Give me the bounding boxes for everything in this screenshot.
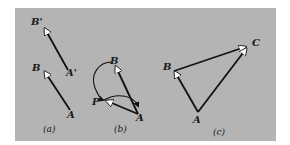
vector-B-to-C: [174, 47, 245, 71]
label-A-prime: A': [66, 68, 77, 78]
label-C: C: [252, 38, 260, 48]
label-B: B: [110, 56, 118, 66]
label-A: A: [136, 113, 144, 123]
panel-c-vectors: [174, 47, 246, 112]
vector-A-to-C: [198, 49, 246, 112]
caption-b: (b): [114, 125, 127, 134]
caption-c: (c): [213, 128, 225, 137]
label-A: A: [193, 115, 201, 125]
curve-B-to-P: [94, 62, 112, 100]
panel-b-vectors: [94, 62, 138, 114]
label-B-prime: B': [31, 17, 43, 27]
label-B: B: [32, 63, 40, 73]
vector-A-prime-to-B-prime: [45, 29, 68, 70]
label-A: A: [67, 110, 75, 120]
vector-A-to-B: [175, 72, 198, 112]
label-B: B: [163, 62, 171, 72]
label-P: P: [92, 97, 100, 107]
caption-a: (a): [43, 125, 55, 134]
